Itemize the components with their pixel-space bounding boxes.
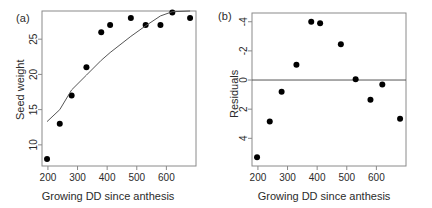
- svg-text:400: 400: [309, 172, 326, 183]
- panel-a-xaxis-title: Growing DD since anthesis: [0, 190, 216, 202]
- svg-text:-4: -4: [239, 17, 250, 26]
- svg-text:-2: -2: [239, 46, 250, 55]
- svg-text:25: 25: [29, 33, 40, 45]
- svg-text:400: 400: [99, 172, 116, 183]
- svg-text:500: 500: [128, 172, 145, 183]
- svg-text:10: 10: [29, 139, 40, 151]
- svg-text:4: 4: [239, 135, 250, 141]
- svg-text:600: 600: [368, 172, 385, 183]
- svg-text:20: 20: [29, 68, 40, 80]
- svg-text:2: 2: [239, 106, 250, 112]
- panel-b-plot: 200300400500600420-2-4: [216, 0, 432, 208]
- panel-a-plot: 20030040050060010152025: [0, 0, 216, 208]
- svg-text:500: 500: [338, 172, 355, 183]
- panel-a-yaxis-title: Seed weight: [14, 59, 26, 120]
- figure-container: (a) 20030040050060010152025 Growing DD s…: [0, 0, 432, 208]
- panel-a: (a) 20030040050060010152025 Growing DD s…: [0, 0, 216, 208]
- panel-b: (b) 200300400500600420-2-4 Growing DD si…: [216, 0, 432, 208]
- svg-text:0: 0: [239, 77, 250, 83]
- panel-b-yaxis-title: Residuals: [228, 70, 240, 118]
- svg-text:200: 200: [40, 172, 57, 183]
- svg-text:600: 600: [158, 172, 175, 183]
- svg-text:200: 200: [250, 172, 267, 183]
- svg-text:15: 15: [29, 104, 40, 116]
- svg-text:300: 300: [69, 172, 86, 183]
- svg-text:300: 300: [279, 172, 296, 183]
- panel-b-xaxis-title: Growing DD since anthesis: [216, 190, 432, 202]
